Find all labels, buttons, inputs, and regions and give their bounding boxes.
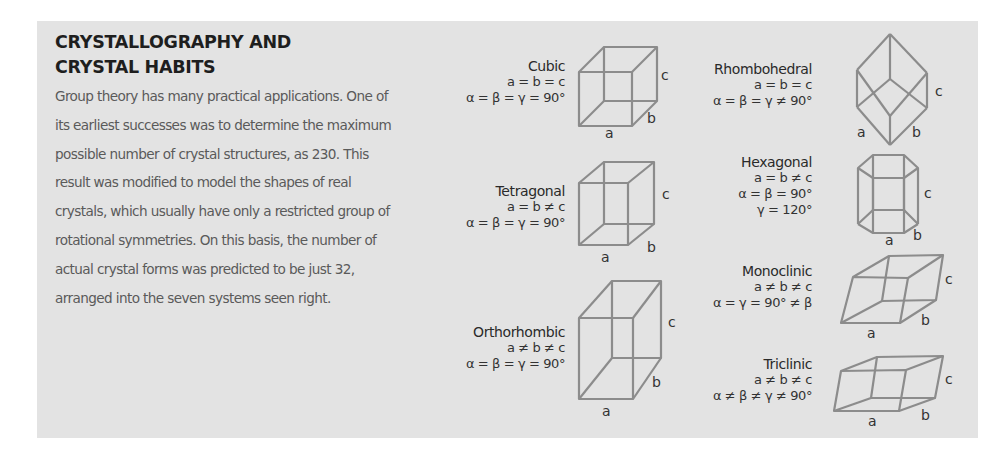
svg-text:b: b [647, 239, 656, 255]
svg-text:b: b [652, 374, 661, 390]
svg-text:c: c [924, 185, 932, 201]
svg-text:a: a [602, 403, 611, 419]
orthorhombic-crystal-icon: c b a [579, 281, 676, 419]
svg-text:b: b [921, 312, 930, 328]
svg-text:b: b [647, 110, 656, 126]
svg-text:c: c [935, 83, 943, 99]
cubic-crystal-icon: c b a [579, 47, 669, 141]
svg-text:c: c [945, 371, 953, 387]
svg-text:b: b [913, 227, 922, 243]
crystal-diagrams: c b a c b a c b a [0, 0, 1006, 456]
svg-text:a: a [868, 413, 877, 429]
svg-text:a: a [885, 232, 894, 248]
svg-text:c: c [662, 186, 670, 202]
tetragonal-crystal-icon: c b a [579, 162, 670, 265]
triclinic-crystal-icon: c b a [834, 356, 953, 429]
rhombohedral-crystal-icon: c b a [857, 34, 943, 145]
svg-text:a: a [867, 325, 876, 341]
svg-text:c: c [945, 271, 953, 287]
svg-text:b: b [912, 124, 921, 140]
hexagonal-crystal-icon: c b a [858, 155, 932, 248]
svg-text:a: a [605, 125, 614, 141]
svg-text:c: c [661, 67, 669, 83]
monoclinic-crystal-icon: c b a [841, 255, 953, 341]
svg-text:b: b [921, 407, 930, 423]
svg-text:c: c [668, 314, 676, 330]
svg-text:a: a [601, 249, 610, 265]
svg-text:a: a [857, 124, 866, 140]
